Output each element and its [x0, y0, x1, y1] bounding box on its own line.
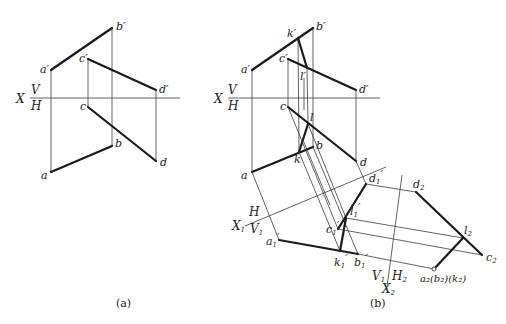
label-l1-prime: l1′: [350, 201, 361, 219]
caption-b: (b): [370, 297, 386, 310]
axis1-v1-label: V1: [250, 222, 263, 237]
label-b-b: b: [316, 139, 323, 152]
point-a2-marker: [432, 267, 436, 271]
line-ab-top: [51, 146, 112, 172]
axis2-h2-label: H2: [391, 269, 407, 284]
label-a: a: [41, 169, 48, 182]
label-c-b: c: [280, 100, 286, 113]
projector-d-aux2: [366, 184, 416, 192]
label-d-b: d: [360, 156, 367, 169]
label-b: b: [115, 137, 122, 150]
axis-h-label: H: [30, 99, 42, 113]
label-a-prime-b: a′: [241, 63, 251, 76]
line-ab-top-b: [252, 147, 313, 172]
label-k-prime-b: k′: [287, 27, 297, 40]
axis-x-label-b: X: [213, 92, 223, 106]
label-c: c: [80, 100, 86, 113]
axis1-x1-label: X1: [231, 219, 245, 234]
axis2-x2-label: X2: [381, 282, 396, 297]
label-a-prime: a′: [40, 63, 50, 76]
label-b-prime: b′: [116, 20, 126, 33]
axis-x-label: X: [15, 92, 25, 106]
label-a-b: a: [241, 169, 248, 182]
diagram-canvas: X V H a′ b′ c′ d′ a b c d (a): [0, 0, 506, 324]
line-kl-aux2: [434, 238, 463, 269]
figure-b: X V H H V1 X1 V1 H2 X2 a′ b′ k′ c′ l′ d′…: [213, 20, 497, 310]
label-d-prime: d′: [159, 83, 169, 96]
projector-k-b: [298, 38, 299, 152]
line-cd-aux2: [416, 192, 482, 255]
line-cd-front: [88, 59, 156, 90]
axis-v-label-b: V: [228, 83, 238, 97]
axis1-h-label: H: [248, 205, 260, 219]
label-d: d: [160, 156, 167, 169]
figure-a: X V H a′ b′ c′ d′ a b c d (a): [15, 20, 180, 310]
axis-v-label: V: [31, 83, 41, 97]
label-l2: l2: [464, 224, 473, 238]
label-a2-b2-k2: a₂(b₂)(k₂): [420, 273, 466, 284]
label-l-b: l: [310, 111, 314, 124]
projection-diagram: X V H a′ b′ c′ d′ a b c d (a): [0, 0, 506, 324]
caption-a: (a): [116, 297, 131, 310]
axis-h-label-b: H: [227, 99, 239, 113]
projector-b-aux1: [313, 147, 358, 254]
label-d-prime-b: d′: [359, 83, 369, 96]
label-k1-prime: k1′: [334, 252, 348, 270]
label-c2: c2: [486, 251, 497, 265]
label-d2: d2: [413, 178, 425, 192]
label-l-prime-b: l′: [300, 70, 307, 83]
label-a1-prime: a1′: [266, 231, 280, 249]
label-c-prime-b: c′: [279, 52, 288, 65]
label-c-prime: c′: [79, 52, 88, 65]
x1-axis-line: [245, 167, 386, 226]
projector-a-aux2: [358, 254, 434, 269]
label-k-b: k: [294, 153, 301, 166]
projector-l-b: [307, 68, 308, 124]
label-b-prime-b: b′: [316, 20, 326, 33]
